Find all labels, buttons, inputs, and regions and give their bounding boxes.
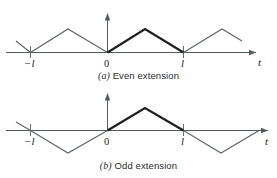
x-tick-label-minus-l-even: −l	[24, 57, 34, 69]
x-tick-label-origin-even: 0	[104, 58, 109, 69]
x-tick-label-l-even: l	[181, 57, 184, 69]
x-axis-arrowhead-even	[249, 50, 256, 55]
y-axis-arrowhead-even	[105, 13, 110, 21]
wave-thin-right-even	[184, 29, 243, 53]
wave-thin-left-even	[16, 29, 108, 53]
x-axis-label-even: t	[258, 56, 262, 68]
wave-bold-original-even	[108, 29, 184, 53]
x-tick-label-minus-l-odd: −l	[24, 135, 34, 147]
y-axis-arrowhead-odd	[105, 93, 110, 101]
figure-root: −l 0 l t (a) Even extension −l 0 l t (b)	[0, 0, 277, 178]
x-axis-label-odd: t	[265, 135, 269, 147]
x-tick-label-origin-odd: 0	[104, 136, 109, 147]
caption-even-extension: (a) Even extension	[0, 70, 277, 81]
x-tick-label-l-odd: l	[181, 135, 184, 147]
caption-text-odd: Odd extension	[115, 160, 178, 171]
x-axis-arrowhead-odd	[261, 128, 268, 133]
caption-tag-even: (a)	[98, 70, 110, 81]
caption-text-even: Even extension	[113, 70, 179, 81]
caption-tag-odd: (b)	[100, 160, 112, 171]
wave-bold-original-odd	[108, 108, 184, 131]
wave-thin-right-odd	[184, 131, 260, 154]
caption-odd-extension: (b) Odd extension	[0, 160, 277, 171]
